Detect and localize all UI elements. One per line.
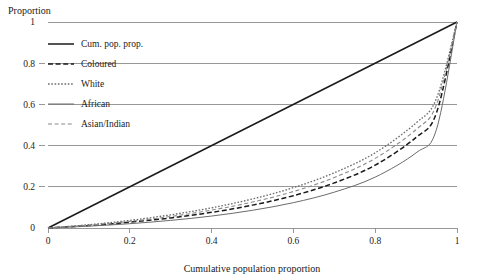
legend-label: African <box>81 99 110 109</box>
legend-label: Cum. pop. prop. <box>81 39 143 49</box>
x-tick-labels: 00.20.40.60.81 <box>46 236 460 246</box>
legend-label: Asian/Indian <box>81 119 130 129</box>
x-tick-marks <box>48 228 457 233</box>
x-tick-label: 0.4 <box>206 236 218 246</box>
x-tick-label: 1 <box>455 236 460 246</box>
x-tick-label: 0.6 <box>287 236 299 246</box>
legend-label: White <box>81 79 104 89</box>
y-tick-label: 0.8 <box>23 59 35 69</box>
lorenz-curve-chart: 00.20.40.60.81 00.20.40.60.81 Proportion… <box>0 0 477 278</box>
chart-canvas: 00.20.40.60.81 00.20.40.60.81 Proportion… <box>0 0 477 278</box>
x-axis-title: Cumulative population proportion <box>184 263 321 274</box>
legend-label: Coloured <box>81 59 117 69</box>
y-tick-label: 1 <box>30 17 35 27</box>
y-axis-title: Proportion <box>8 5 51 16</box>
y-tick-label: 0 <box>30 223 35 233</box>
y-tick-labels: 00.20.40.60.81 <box>23 17 35 233</box>
y-tick-label: 0.4 <box>23 141 35 151</box>
x-tick-label: 0 <box>46 236 51 246</box>
y-tick-marks <box>39 63 45 187</box>
y-tick-label: 0.6 <box>23 100 35 110</box>
x-tick-label: 0.2 <box>124 236 136 246</box>
y-tick-label: 0.2 <box>23 182 35 192</box>
x-tick-label: 0.8 <box>369 236 381 246</box>
legend: Cum. pop. prop.ColouredWhiteAfricanAsian… <box>48 39 143 129</box>
